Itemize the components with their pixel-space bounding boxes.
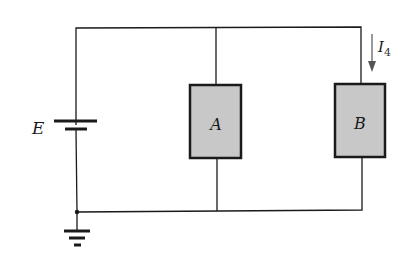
wire-bottom	[77, 157, 362, 212]
source-label: E	[31, 118, 45, 138]
circuit-diagram: E A B I4	[0, 0, 417, 265]
load-b: B	[335, 84, 385, 157]
ground-icon	[64, 231, 90, 245]
wire-left-lower	[76, 130, 77, 212]
current-arrow-icon	[368, 34, 376, 72]
load-a-label: A	[208, 115, 222, 134]
junction-dot	[75, 210, 79, 214]
current-subscript: 4	[384, 46, 391, 59]
load-b-label: B	[353, 114, 366, 133]
load-a: A	[190, 85, 241, 158]
current-label: I4	[377, 38, 391, 59]
